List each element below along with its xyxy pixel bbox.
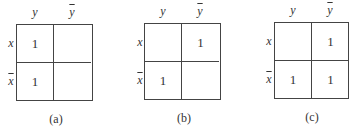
- col-label-y-bar: y: [320, 3, 340, 18]
- cell-xbar-y: 1: [145, 62, 182, 100]
- cell-x-y: [145, 24, 182, 62]
- cell-x-ybar: 1: [182, 24, 219, 62]
- col-label-y: y: [153, 4, 173, 19]
- cell-xbar-ybar: [182, 62, 219, 100]
- cell-xbar-ybar: 1: [312, 61, 349, 99]
- cell-xbar-y: 1: [17, 63, 54, 101]
- cell-x-ybar: 1: [312, 23, 349, 61]
- kmap-grid: 1 1: [16, 24, 93, 101]
- cell-x-y: 1: [17, 25, 54, 63]
- cell-x-y: [275, 23, 312, 61]
- cell-x-ybar: [54, 25, 91, 63]
- caption: (b): [164, 111, 204, 126]
- caption: (a): [36, 112, 76, 127]
- col-label-y-bar: y: [190, 4, 210, 19]
- cell-xbar-ybar: [54, 63, 91, 101]
- kmap-grid: 1 1: [144, 23, 221, 100]
- col-label-y-bar: y: [62, 5, 82, 20]
- col-label-y: y: [25, 5, 45, 20]
- cell-xbar-y: 1: [275, 61, 312, 99]
- kmap-grid: 1 1 1: [274, 22, 349, 99]
- caption: (c): [292, 110, 332, 125]
- col-label-y: y: [283, 3, 303, 18]
